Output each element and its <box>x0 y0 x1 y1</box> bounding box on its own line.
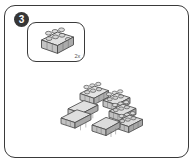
brick-left-arm-lower <box>61 110 91 131</box>
callout-brick-2x4 <box>35 28 79 58</box>
instruction-page: 3 <box>0 0 196 166</box>
brick-bottom-centre <box>92 117 120 137</box>
step-number-badge: 3 <box>14 12 29 27</box>
callout-quantity-label: 2x <box>75 53 80 59</box>
assembly-model <box>58 78 158 146</box>
parts-callout-box: 2x <box>27 22 85 62</box>
